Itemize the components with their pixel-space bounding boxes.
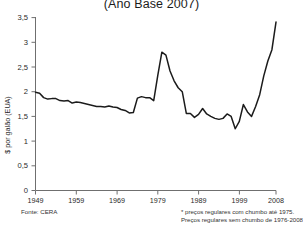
chart-figure: (Año Base 2007) $ por galão (EUA) 0 0,5 … bbox=[0, 0, 303, 230]
y-tick-label-0: 0 bbox=[24, 186, 28, 195]
y-tick-group bbox=[32, 18, 36, 191]
x-tick-label-1: 1959 bbox=[68, 196, 84, 205]
x-tick-label-2: 1969 bbox=[109, 196, 125, 205]
x-tick-label-4: 1989 bbox=[191, 196, 207, 205]
footnotes-block: * preços regulares com chumbo até 1975. … bbox=[181, 208, 303, 223]
y-tick-label-2: 1 bbox=[24, 137, 28, 146]
price-series-line bbox=[36, 22, 277, 129]
source-note: Fonte: CERA bbox=[21, 208, 57, 215]
y-tick-label-5: 2,5 bbox=[17, 63, 28, 72]
y-tick-label-3: 1,5 bbox=[17, 112, 28, 121]
y-axis-label: $ por galão (EUA) bbox=[3, 96, 12, 154]
y-tick-label-1: 0,5 bbox=[17, 161, 28, 170]
footnote-unleaded: Preços regulares sem chumbo de 1976-2008… bbox=[181, 216, 303, 224]
x-tick-group bbox=[36, 191, 277, 195]
x-tick-label-6: 2008 bbox=[268, 196, 284, 205]
x-tick-label-3: 1979 bbox=[150, 196, 166, 205]
y-tick-label-4: 2 bbox=[24, 87, 28, 96]
x-tick-label-0: 1949 bbox=[28, 196, 44, 205]
gasoline-price-line-chart: $ por galão (EUA) 0 0,5 1 1,5 2 2,5 3 3,… bbox=[0, 0, 303, 230]
x-tick-label-5: 1999 bbox=[231, 196, 247, 205]
y-tick-label-7: 3,5 bbox=[17, 13, 28, 22]
y-tick-label-6: 3 bbox=[24, 38, 28, 47]
footnote-leaded: * preços regulares com chumbo até 1975. bbox=[181, 208, 303, 216]
